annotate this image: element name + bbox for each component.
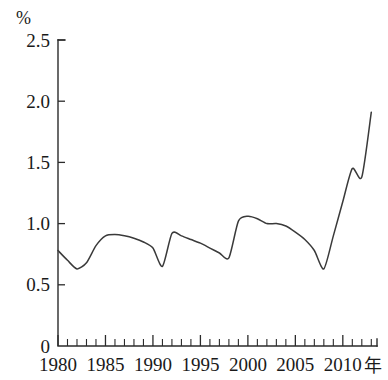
y-axis-unit-label: % bbox=[16, 8, 31, 28]
y-tick-label: 1.5 bbox=[26, 152, 50, 173]
y-tick-label: 0.5 bbox=[26, 274, 50, 295]
y-axis-tick-labels: 00.51.01.52.02.5 bbox=[26, 30, 50, 357]
x-tick-label: 2010 bbox=[324, 354, 362, 375]
data-series bbox=[58, 112, 371, 269]
axes bbox=[58, 40, 377, 346]
x-tick-label: 1990 bbox=[134, 354, 172, 375]
series-line bbox=[58, 112, 371, 269]
x-tick-label: 2000 bbox=[229, 354, 267, 375]
x-tick-label: 1995 bbox=[181, 354, 219, 375]
y-tick-label: 2.0 bbox=[26, 91, 50, 112]
line-chart: 00.51.01.52.02.5 19801985199019952000200… bbox=[0, 0, 388, 380]
x-axis-unit-label: 年 bbox=[364, 355, 382, 376]
chart-page: 00.51.01.52.02.5 19801985199019952000200… bbox=[0, 0, 388, 380]
x-tick-label: 2005 bbox=[276, 354, 314, 375]
x-tick-label: 1985 bbox=[86, 354, 124, 375]
axis-spine bbox=[58, 40, 377, 346]
x-tick-label: 1980 bbox=[39, 354, 77, 375]
y-tick-label: 1.0 bbox=[26, 213, 50, 234]
tick-marks bbox=[58, 40, 371, 346]
y-tick-label: 2.5 bbox=[26, 30, 50, 51]
x-axis-tick-labels: 1980198519901995200020052010 bbox=[39, 354, 362, 375]
